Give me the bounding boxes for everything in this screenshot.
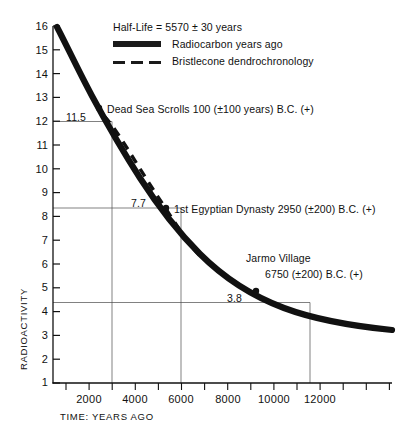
y-tick-label-6: 6 [26, 258, 48, 270]
guide-value-3-8: 3.8 [227, 292, 242, 304]
y-tick-label-8: 8 [26, 210, 48, 222]
radiocarbon-decay-chart: 16 15 14 13 12 11 10 9 8 7 6 5 4 3 2 1 2… [0, 0, 408, 438]
dashed-line-icon-seg3 [149, 61, 161, 64]
y-tick-label-9: 9 [26, 186, 48, 198]
y-tick-label-3: 3 [26, 329, 48, 341]
marker-dead-sea-scrolls [96, 105, 102, 111]
y-axis-ticks [53, 26, 60, 383]
x-tick-label-8000: 8000 [205, 393, 251, 405]
y-tick-label-1: 1 [26, 376, 48, 388]
annotation-egyptian-dynasty: 1st Egyptian Dynasty 2950 (±200) B.C. (+… [174, 203, 376, 215]
y-axis-label: RADIOACTIVITY [18, 288, 29, 370]
marker-jarmo-village [253, 288, 259, 294]
x-axis-label: TIME: YEARS AGO [60, 411, 154, 422]
y-tick-label-5: 5 [26, 281, 48, 293]
y-tick-label-13: 13 [26, 91, 48, 103]
y-tick-label-14: 14 [26, 68, 48, 80]
y-tick-label-15: 15 [26, 44, 48, 56]
dashed-line-icon-seg1 [113, 61, 125, 64]
legend-label-radiocarbon: Radiocarbon years ago [172, 38, 283, 50]
marker-egyptian-dynasty [163, 205, 169, 211]
legend-label-bristlecone: Bristlecone dendrochronology [172, 55, 314, 67]
y-tick-label-12: 12 [26, 115, 48, 127]
half-life-note: Half-Life = 5570 ± 30 years [113, 21, 242, 33]
x-tick-label-10000: 10000 [251, 393, 297, 405]
y-tick-label-11: 11 [26, 139, 48, 151]
guide-value-11-5: 11.5 [66, 111, 86, 123]
y-tick-label-4: 4 [26, 305, 48, 317]
solid-bar-icon [113, 41, 161, 47]
y-tick-label-2: 2 [26, 353, 48, 365]
x-tick-label-2000: 2000 [66, 393, 112, 405]
series-bristlecone-dendrochronology [104, 116, 209, 262]
y-tick-label-16: 16 [26, 20, 48, 32]
dashed-line-icon-seg2 [131, 61, 143, 64]
x-tick-label-12000: 12000 [297, 393, 343, 405]
x-tick-label-6000: 6000 [158, 393, 204, 405]
y-tick-label-10: 10 [26, 163, 48, 175]
x-tick-label-4000: 4000 [112, 393, 158, 405]
data-point-markers [96, 105, 259, 294]
x-axis-ticks [66, 383, 389, 390]
annotation-jarmo-village-name: Jarmo Village [246, 252, 311, 264]
annotation-jarmo-village-date: 6750 (±200) B.C. (+) [265, 268, 363, 280]
guide-value-7-7: 7.7 [131, 197, 146, 209]
y-tick-label-7: 7 [26, 234, 48, 246]
annotation-dead-sea-scrolls: Dead Sea Scrolls 100 (±100 years) B.C. (… [107, 103, 314, 115]
series-radiocarbon-years-ago [57, 27, 392, 330]
